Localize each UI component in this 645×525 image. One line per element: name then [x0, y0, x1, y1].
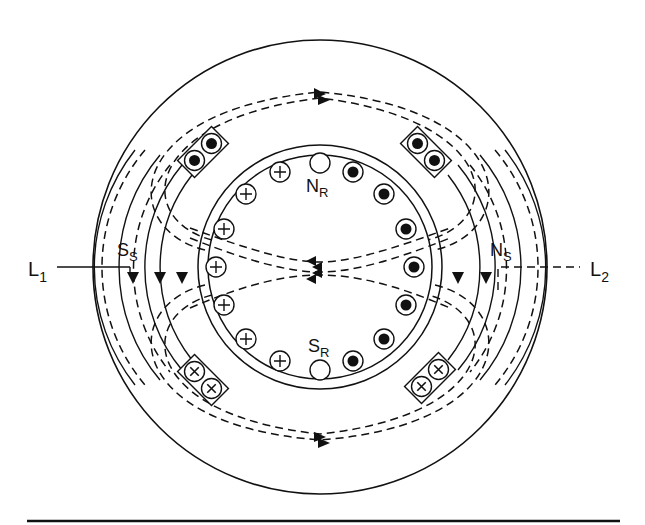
cross-conductor-icon [236, 184, 256, 204]
label-L2: L2 [590, 258, 609, 285]
dot-conductor-icon [343, 351, 363, 371]
arrow-left-icon [306, 256, 316, 266]
stator-slot-bottom-right [405, 353, 456, 404]
flux-arrows [127, 88, 492, 448]
label-L1: L1 [28, 258, 47, 285]
label-stator-south: SS [117, 240, 138, 264]
cross-conductor-icon [214, 219, 234, 239]
dot-conductor-icon [374, 184, 394, 204]
arrow-down-icon [127, 272, 139, 284]
supply-line-L2 [498, 267, 580, 290]
cross-conductor-icon [270, 162, 290, 182]
cross-conductor-icon [206, 257, 226, 277]
cross-conductor-icon [270, 351, 290, 371]
empty-conductor-icon [310, 360, 330, 380]
label-rotor-south: SR [308, 336, 329, 360]
arrow-down-icon [154, 272, 166, 284]
stator-slot-top-left [178, 127, 229, 178]
stator-slot-bottom-left [178, 355, 229, 406]
arrow-down-icon [452, 272, 464, 284]
cross-conductor-icon [236, 329, 256, 349]
stator-slot-top-right [401, 127, 452, 178]
empty-conductor-icon [310, 153, 330, 173]
motor-diagram: L1 L2 SS NS NR SR [0, 0, 645, 525]
arrow-right-icon [318, 95, 330, 105]
dot-conductor-icon [404, 257, 424, 277]
label-rotor-north: NR [306, 176, 328, 200]
arrow-down-icon [176, 272, 188, 284]
cross-conductor-icon [214, 295, 234, 315]
arrow-down-icon [480, 272, 492, 284]
dot-conductor-icon [396, 219, 416, 239]
dot-conductor-icon [343, 162, 363, 182]
dot-conductor-icon [374, 329, 394, 349]
dot-conductor-icon [396, 295, 416, 315]
label-stator-north: NS [490, 240, 512, 264]
